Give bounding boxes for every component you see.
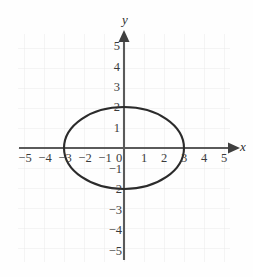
x-tick-label-neg4: −4	[38, 152, 51, 165]
y-tick-label-neg3: −3	[109, 204, 122, 217]
y-tick-label-5: 5	[114, 40, 120, 53]
coordinate-plane-svg	[0, 0, 253, 277]
x-tick-label-1: 1	[141, 152, 147, 165]
y-tick-label-3: 3	[114, 81, 120, 94]
x-axis-label: x	[240, 140, 246, 153]
x-tick-label-neg5: −5	[18, 152, 31, 165]
y-tick-label-neg4: −4	[109, 224, 122, 237]
y-tick-label-neg2: −2	[109, 183, 122, 196]
x-axis-arrowhead	[228, 143, 240, 154]
y-axis-label: y	[122, 13, 128, 26]
y-tick-label-neg5: −5	[109, 245, 122, 258]
y-tick-label-neg1: −1	[109, 163, 122, 176]
x-tick-label-2: 2	[161, 152, 167, 165]
x-tick-label-neg2: −2	[78, 152, 91, 165]
x-tick-label-5: 5	[221, 152, 227, 165]
x-tick-label-neg3: −3	[58, 152, 71, 165]
x-tick-label-4: 4	[201, 152, 207, 165]
y-tick-label-2: 2	[114, 101, 120, 114]
y-tick-label-4: 4	[114, 61, 120, 74]
x-tick-label-3: 3	[181, 152, 187, 165]
y-tick-label-1: 1	[114, 122, 120, 135]
figure-canvas: y x −5 −4 −3 −2 −1 0 1 2 3 4 5 5 4 3 2 1…	[0, 0, 253, 277]
